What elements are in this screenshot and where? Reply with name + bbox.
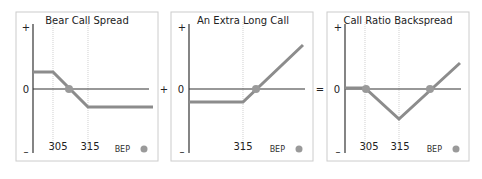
bep-legend-dot xyxy=(453,146,460,153)
panel-title: Call Ratio Backspread xyxy=(343,15,452,26)
y-label-plus: + xyxy=(178,22,186,33)
bep-marker xyxy=(65,85,73,93)
y-label-plus: + xyxy=(334,22,342,33)
x-tick-315: 315 xyxy=(80,141,99,152)
y-label-minus: – xyxy=(24,146,29,157)
bep-legend-label: BEP xyxy=(427,145,443,154)
strategy-diagram: Bear Call Spread + 0 – 305 315 BEP + An … xyxy=(0,0,482,179)
y-label-minus: – xyxy=(180,146,185,157)
panel-border xyxy=(171,12,313,161)
bep-legend-label: BEP xyxy=(270,145,286,154)
y-label-zero: 0 xyxy=(334,84,340,95)
plus-operator: + xyxy=(160,84,168,95)
panel-call-ratio-backspread: Call Ratio Backspread + 0 – 305 315 BEP xyxy=(327,12,469,161)
x-tick-305: 305 xyxy=(359,141,378,152)
y-label-zero: 0 xyxy=(23,84,29,95)
bep-legend-label: BEP xyxy=(115,145,131,154)
panel-bear-call-spread: Bear Call Spread + 0 – 305 315 BEP xyxy=(16,12,158,161)
bep-marker xyxy=(252,85,260,93)
bep-marker-1 xyxy=(362,85,370,93)
bep-legend-dot xyxy=(141,146,148,153)
x-tick-315: 315 xyxy=(233,141,252,152)
y-label-minus: – xyxy=(336,146,341,157)
panel-title: Bear Call Spread xyxy=(45,15,129,26)
x-tick-305: 305 xyxy=(48,141,67,152)
bep-legend-dot xyxy=(296,146,303,153)
panel-extra-long-call: An Extra Long Call + 0 – 315 BEP xyxy=(171,12,313,161)
bep-marker-2 xyxy=(426,85,434,93)
x-tick-315: 315 xyxy=(390,141,409,152)
y-label-plus: + xyxy=(22,22,30,33)
equals-operator: = xyxy=(316,84,324,95)
panel-border xyxy=(16,12,158,161)
y-label-zero: 0 xyxy=(178,84,184,95)
